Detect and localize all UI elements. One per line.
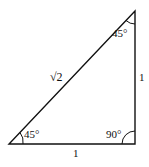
horizontal-side-label: 1 — [73, 147, 79, 159]
angle-label-top: 45° — [112, 27, 127, 39]
angle-arc-bottom-right — [122, 131, 135, 144]
angle-arc-bottom-left — [20, 133, 23, 145]
angle-arc-top — [126, 21, 135, 25]
angle-label-bottom-right: 90° — [106, 128, 121, 140]
triangle-diagram: 45° √2 1 45° 90° 1 — [0, 0, 149, 167]
triangle-svg: 45° √2 1 45° 90° 1 — [0, 0, 149, 167]
angle-label-bottom-left: 45° — [24, 128, 39, 140]
vertical-side-label: 1 — [139, 71, 145, 83]
hypotenuse-label: √2 — [50, 70, 63, 84]
